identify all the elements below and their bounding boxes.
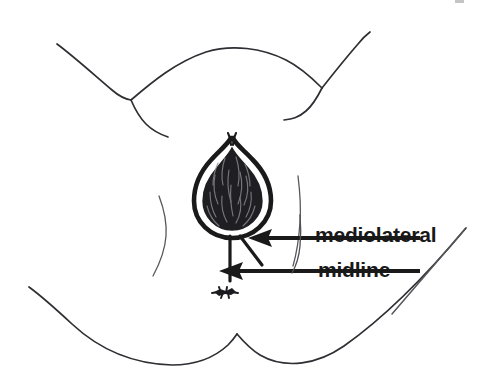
top-edge-artifact [455, 0, 464, 3]
label-midline: midline [318, 259, 390, 280]
label-mediolateral: mediolateral [315, 224, 436, 245]
episiotomy-illustration: mediolateral midline [0, 0, 494, 385]
illustration-canvas [0, 0, 494, 385]
top-edge-artifact-mark [455, 0, 464, 3]
